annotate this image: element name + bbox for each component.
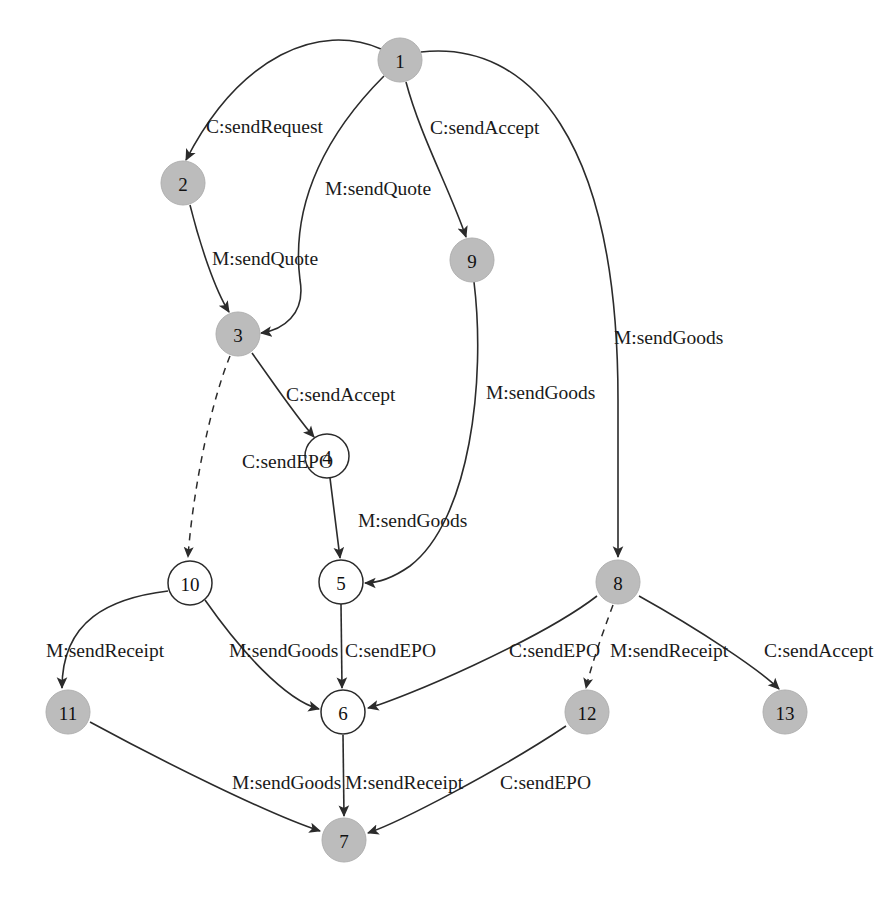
edge-label-2-to-3: M:sendQuote: [212, 248, 318, 269]
node-3[interactable]: 3: [216, 312, 260, 356]
node-label-6: 6: [338, 703, 348, 724]
edge-label-9-to-5: M:sendGoods: [486, 382, 595, 403]
edge-label-1-to-9: C:sendAccept: [430, 117, 540, 138]
edge-label-6-to-7: M:sendReceipt: [345, 772, 464, 793]
node-label-12: 12: [578, 703, 597, 724]
nodes-layer: 12345678910111213: [46, 38, 807, 862]
edge-labels-layer: C:sendRequestC:sendAcceptM:sendQuoteM:se…: [46, 116, 874, 793]
node-label-10: 10: [181, 574, 200, 595]
node-label-2: 2: [178, 174, 188, 195]
edge-label-3-to-4: C:sendAccept: [286, 384, 396, 405]
node-1[interactable]: 1: [378, 38, 422, 82]
edges-layer: [62, 40, 779, 833]
edge-label-8-to-13: C:sendAccept: [764, 640, 874, 661]
edge-label-10-to-11: M:sendReceipt: [46, 640, 165, 661]
node-label-5: 5: [336, 573, 346, 594]
edge-label-3-to-10: C:sendEPO: [242, 451, 333, 472]
node-label-3: 3: [233, 325, 243, 346]
edge-9-to-5: [365, 282, 478, 583]
node-9[interactable]: 9: [450, 238, 494, 282]
edge-3-to-10: [188, 356, 230, 557]
node-label-7: 7: [339, 831, 349, 852]
node-label-11: 11: [59, 703, 77, 724]
edge-label-5-to-6: C:sendEPO: [345, 640, 436, 661]
node-5[interactable]: 5: [319, 560, 363, 604]
edge-label-1-to-2: C:sendRequest: [206, 116, 324, 137]
edge-1-to-9: [406, 82, 466, 237]
node-13[interactable]: 13: [763, 690, 807, 734]
edge-label-1-to-8: M:sendGoods: [614, 327, 723, 348]
edge-1-to-2: [186, 40, 381, 160]
edge-label-12-to-7: C:sendEPO: [500, 772, 591, 793]
state-transition-diagram: 12345678910111213 C:sendRequestC:sendAcc…: [0, 0, 883, 898]
node-6[interactable]: 6: [321, 690, 365, 734]
node-label-1: 1: [395, 51, 405, 72]
node-12[interactable]: 12: [565, 690, 609, 734]
edge-5-to-6: [341, 604, 342, 688]
node-7[interactable]: 7: [322, 818, 366, 862]
edge-label-4-to-5: M:sendGoods: [358, 510, 467, 531]
edge-label-1-to-3: M:sendQuote: [325, 178, 431, 199]
edge-label-8-to-12: M:sendReceipt: [610, 640, 729, 661]
node-label-9: 9: [467, 251, 477, 272]
node-8[interactable]: 8: [596, 560, 640, 604]
edge-4-to-5: [330, 478, 340, 558]
node-label-13: 13: [776, 703, 795, 724]
edge-label-10-to-6: M:sendGoods: [229, 640, 338, 661]
edge-label-8-to-6: C:sendEPO: [509, 640, 600, 661]
edge-label-11-to-7: M:sendGoods: [232, 772, 341, 793]
node-label-8: 8: [613, 573, 623, 594]
node-11[interactable]: 11: [46, 690, 90, 734]
edge-6-to-7: [343, 735, 344, 816]
graph-canvas: 12345678910111213 C:sendRequestC:sendAcc…: [0, 0, 883, 898]
node-10[interactable]: 10: [168, 561, 212, 605]
node-2[interactable]: 2: [161, 161, 205, 205]
